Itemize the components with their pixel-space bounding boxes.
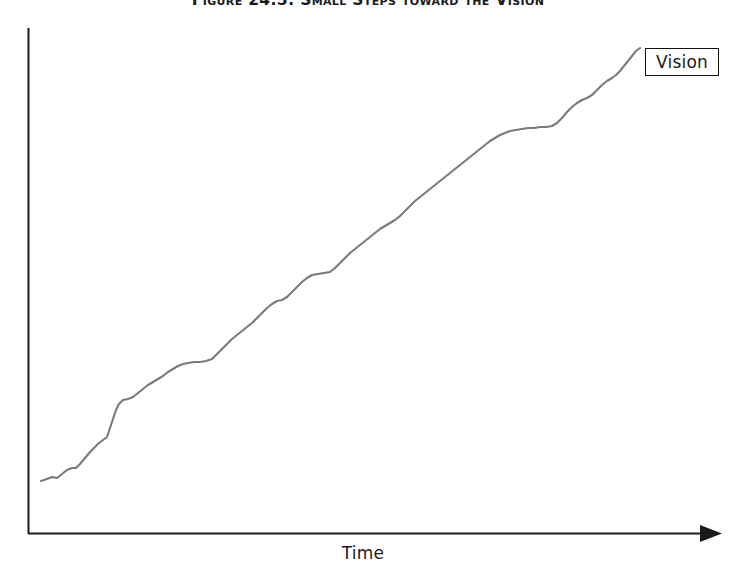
chart-svg bbox=[0, 0, 736, 570]
vision-callout-label: Vision bbox=[656, 54, 708, 71]
progress-curve bbox=[41, 48, 640, 481]
x-axis-label: Time bbox=[342, 543, 384, 563]
vision-callout-box: Vision bbox=[645, 48, 719, 76]
x-axis-title-container: Time bbox=[0, 543, 736, 563]
x-axis-arrow-icon bbox=[700, 525, 722, 542]
chart-plot-area bbox=[0, 0, 736, 570]
